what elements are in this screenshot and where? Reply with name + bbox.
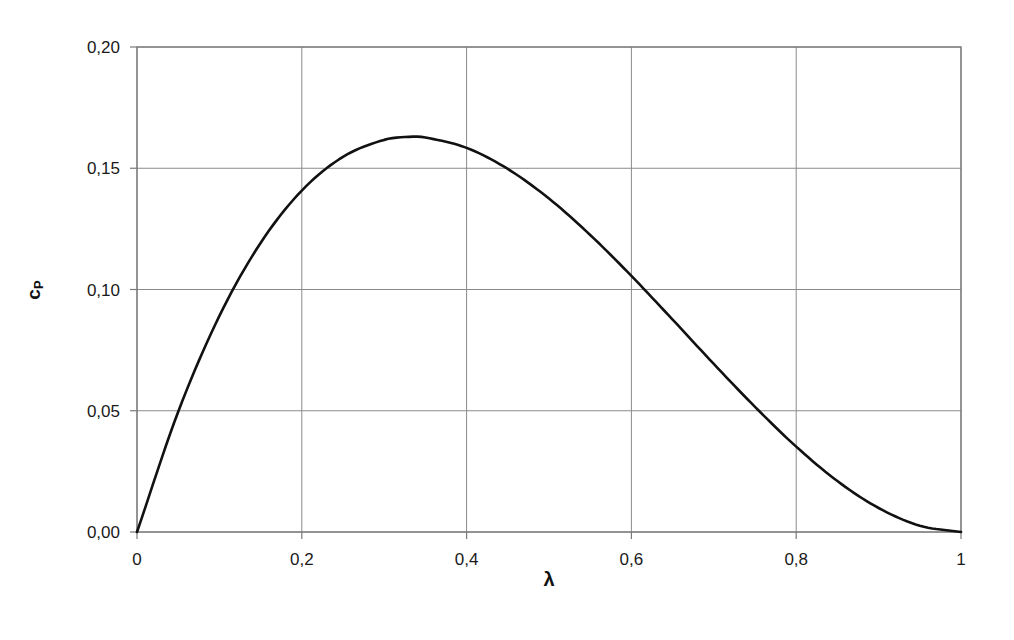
x-axis-label: λ xyxy=(543,568,554,590)
y-tick-label: 0,10 xyxy=(87,281,120,300)
x-tick-label: 0,2 xyxy=(290,550,314,569)
y-tick-label: 0,15 xyxy=(87,159,120,178)
grid-lines xyxy=(137,47,961,532)
axis-ticks xyxy=(130,47,961,539)
x-tick-label: 0 xyxy=(132,550,141,569)
y-axis-label-sub: P xyxy=(31,280,46,289)
y-axis-label-main: c xyxy=(23,289,44,300)
x-tick-label: 0,6 xyxy=(620,550,644,569)
y-axis-label: cP xyxy=(23,280,46,300)
x-tick-label: 1 xyxy=(956,550,965,569)
y-tick-label: 0,20 xyxy=(87,38,120,57)
chart: 00,20,40,60,81 0,000,050,100,150,20 λ cP xyxy=(0,0,1014,640)
y-tick-label: 0,05 xyxy=(87,402,120,421)
x-tick-label: 0,4 xyxy=(455,550,479,569)
y-tick-label: 0,00 xyxy=(87,523,120,542)
x-tick-labels: 00,20,40,60,81 xyxy=(132,550,965,569)
y-tick-labels: 0,000,050,100,150,20 xyxy=(87,38,120,542)
cp-curve xyxy=(137,137,961,532)
x-tick-label: 0,8 xyxy=(784,550,808,569)
svg-text:cP: cP xyxy=(23,280,46,300)
